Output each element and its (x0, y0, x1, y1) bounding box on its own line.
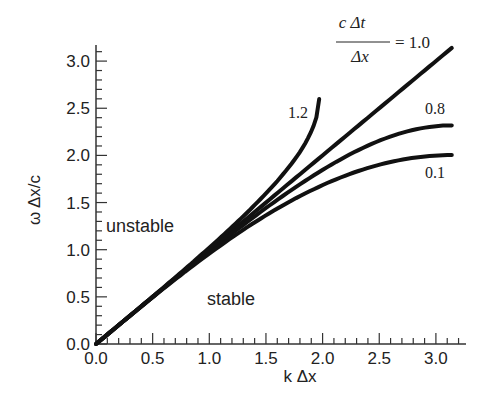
courant-formula: c Δt Δx = 1.0 (336, 13, 430, 66)
curve-label-1-2: 1.2 (288, 104, 308, 121)
y-ticks: 0.00.51.01.52.02.53.0 (66, 52, 107, 354)
y-tick-label: 1.0 (66, 241, 90, 260)
dispersion-chart: 0.00.51.01.52.02.53.0 0.00.51.01.52.02.5… (0, 0, 492, 405)
formula-denominator: Δx (350, 47, 369, 66)
y-tick-label: 2.5 (66, 99, 90, 118)
x-axis-label: k Δx (283, 367, 317, 386)
curve-label-0-1: 0.1 (425, 164, 445, 181)
y-tick-label: 1.5 (66, 194, 90, 213)
x-tick-label: 1.5 (254, 349, 278, 368)
formula-equals: = 1.0 (395, 33, 430, 52)
y-tick-label: 2.0 (66, 146, 90, 165)
curves (96, 48, 452, 344)
formula-numerator: c Δt (339, 13, 367, 32)
x-tick-label: 2.5 (367, 349, 391, 368)
y-axis-label: ω Δx/c (25, 174, 44, 225)
x-tick-label: 1.0 (197, 349, 221, 368)
y-tick-label: 0.0 (66, 335, 90, 354)
unstable-label: unstable (106, 216, 174, 236)
curve-label-0-8: 0.8 (425, 100, 445, 117)
y-tick-label: 0.5 (66, 288, 90, 307)
y-tick-label: 3.0 (66, 52, 90, 71)
stable-label: stable (207, 289, 255, 309)
x-ticks: 0.00.51.01.52.02.53.0 (84, 333, 458, 368)
x-tick-label: 2.0 (311, 349, 335, 368)
x-tick-label: 3.0 (424, 349, 448, 368)
x-tick-label: 0.5 (141, 349, 165, 368)
